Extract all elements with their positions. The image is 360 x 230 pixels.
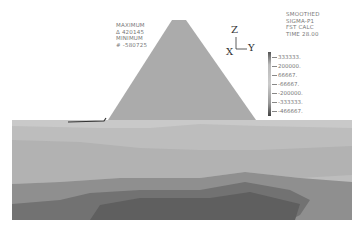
result-extremes: MAXIMUM Δ 420145 MINIMUM # -580725 [116, 22, 147, 48]
minimum-label: MINIMUM [116, 35, 147, 42]
legend-row: 333333. [272, 54, 301, 60]
y-axis-label: Y [248, 42, 255, 53]
legend-row: 66667. [272, 72, 297, 78]
legend-row: -333333. [272, 99, 303, 105]
legend-color-bar [268, 52, 271, 116]
x-axis-label: X [226, 46, 233, 57]
legend-row: 200000. [272, 63, 301, 69]
plot-info-line4: TIME 28.00 [286, 31, 320, 38]
plot-info-line1: SMOOTHED [286, 11, 320, 18]
plot-info: SMOOTHED SIGMA-P1 FST CALC TIME 28.00 [286, 11, 320, 37]
legend-row: -66667. [272, 81, 299, 87]
legend-row: -466667. [272, 108, 303, 114]
minimum-value: # -580725 [116, 42, 147, 49]
z-axis-label: Z [231, 24, 238, 35]
legend-row: -200000. [272, 90, 303, 96]
maximum-label: MAXIMUM [116, 22, 147, 29]
